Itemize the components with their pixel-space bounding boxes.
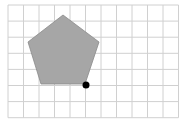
vertex-point bbox=[83, 82, 90, 89]
grid-diagram bbox=[0, 0, 186, 123]
